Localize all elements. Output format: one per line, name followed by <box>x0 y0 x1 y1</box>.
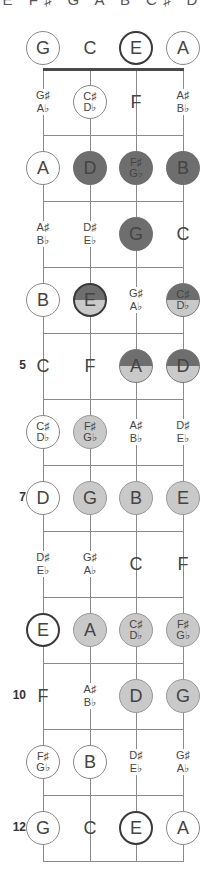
note-marker: A♯B♭ <box>119 415 153 449</box>
note-marker: F <box>73 349 107 383</box>
fret-line <box>43 861 184 862</box>
note-label: G♭ <box>36 762 50 773</box>
note-label: D♯ <box>36 551 49 564</box>
note-label: B♭ <box>130 432 142 445</box>
note-label: D <box>84 159 97 177</box>
note-marker: C♯D♭ <box>26 415 60 449</box>
note-label: F <box>85 357 96 375</box>
note-marker: C♯D♭ <box>73 85 107 119</box>
note-label: C <box>37 357 50 375</box>
fret-number-label: 5 <box>6 358 26 372</box>
note-label: A♭ <box>37 102 49 115</box>
fret-line <box>43 663 184 664</box>
note-label: A <box>37 159 49 177</box>
note-marker: C <box>73 31 107 65</box>
note-marker: A <box>166 31 200 65</box>
note-label: G <box>129 225 143 243</box>
fret-line <box>43 597 184 598</box>
note-marker: B <box>166 151 200 185</box>
note-marker: G <box>119 217 153 251</box>
note-marker: E <box>119 811 153 845</box>
note-marker: A <box>119 349 153 383</box>
fret-number-label: 12 <box>6 820 26 834</box>
note-label: G♭ <box>129 168 143 179</box>
note-marker: F <box>26 679 60 713</box>
note-label: A♭ <box>130 300 142 313</box>
note-label: B <box>130 489 142 507</box>
note-marker: E <box>119 31 153 65</box>
fret-line <box>43 465 184 466</box>
note-label: E <box>130 819 142 837</box>
note-label: C <box>177 225 190 243</box>
note-label: E <box>177 489 189 507</box>
note-label: D <box>130 687 143 705</box>
note-marker: G <box>73 481 107 515</box>
note-label: A♯ <box>130 419 143 432</box>
note-label: B♭ <box>84 696 96 709</box>
note-label: D <box>177 357 190 375</box>
note-label: A♭ <box>177 762 189 775</box>
note-label: G <box>36 819 50 837</box>
note-marker: E <box>26 613 60 647</box>
note-label: D♭ <box>84 102 97 113</box>
note-label: E♭ <box>177 432 189 445</box>
note-label: D♭ <box>37 432 50 443</box>
note-label: A♯ <box>84 683 97 696</box>
note-label: D <box>37 489 50 507</box>
fret-line <box>43 333 184 334</box>
note-label: G♭ <box>83 432 97 443</box>
note-marker: C♯D♭ <box>166 283 200 317</box>
note-label: G <box>36 39 50 57</box>
note-marker: G♯A♭ <box>26 85 60 119</box>
fret-number-label: 10 <box>6 688 26 702</box>
note-marker: C <box>119 547 153 581</box>
note-marker: A <box>26 151 60 185</box>
note-label: A <box>177 39 189 57</box>
note-marker: D♯E♭ <box>73 217 107 251</box>
note-marker: D <box>119 679 153 713</box>
fret-line <box>43 135 184 136</box>
note-label: E <box>130 39 142 57</box>
note-label: B <box>37 291 49 309</box>
note-label: A <box>84 621 96 639</box>
note-marker: G♯A♭ <box>73 547 107 581</box>
note-marker: C <box>26 349 60 383</box>
note-marker: G♯A♭ <box>166 745 200 779</box>
note-marker: B <box>73 745 107 779</box>
note-marker: F♯G♭ <box>166 613 200 647</box>
note-marker: D♯E♭ <box>166 415 200 449</box>
note-marker: C♯D♭ <box>119 613 153 647</box>
note-label: F <box>131 93 142 111</box>
note-label: F <box>178 555 189 573</box>
note-label: A <box>177 819 189 837</box>
note-marker: A♯B♭ <box>166 85 200 119</box>
scale-notes-header: E F♯ G A B C♯ D <box>0 0 206 8</box>
note-label: B <box>84 753 96 771</box>
fret-line <box>43 729 184 730</box>
note-marker: A♯B♭ <box>73 679 107 713</box>
note-marker: B <box>119 481 153 515</box>
note-label: C <box>84 819 97 837</box>
note-label: B♭ <box>177 102 189 115</box>
note-label: D♯ <box>83 221 96 234</box>
note-marker: C <box>166 217 200 251</box>
note-label: C <box>84 39 97 57</box>
note-label: G <box>176 687 190 705</box>
note-marker: G <box>166 679 200 713</box>
note-label: G♯ <box>176 749 190 762</box>
note-marker: D <box>26 481 60 515</box>
fret-line <box>43 795 184 796</box>
note-marker: A <box>166 811 200 845</box>
note-label: D♯ <box>129 749 142 762</box>
note-marker: F♯G♭ <box>119 151 153 185</box>
note-marker: D♯E♭ <box>26 547 60 581</box>
nut <box>43 68 184 71</box>
note-label: D♭ <box>130 630 143 641</box>
note-label: E♭ <box>130 762 142 775</box>
note-label: F <box>38 687 49 705</box>
note-label: G♯ <box>83 551 97 564</box>
note-label: A♯ <box>37 221 50 234</box>
note-marker: G <box>26 811 60 845</box>
note-label: A♯ <box>177 89 190 102</box>
note-label: E♭ <box>37 564 49 577</box>
